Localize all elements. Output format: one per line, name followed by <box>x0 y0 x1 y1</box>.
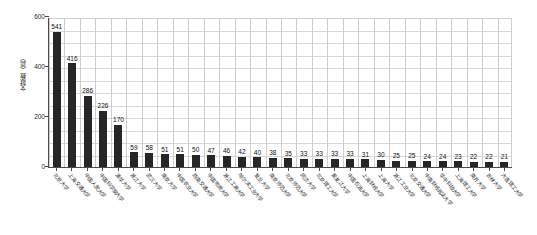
bar-slot: 416 <box>64 18 79 167</box>
x-axis-tick-mark <box>303 168 304 171</box>
x-axis-label-slot: 南京大学 <box>156 172 171 232</box>
bar-value-label: 24 <box>424 153 431 160</box>
bar-value-label: 22 <box>470 153 477 160</box>
bar-chart: 文献数（篇） 541416286226170595851515047464240… <box>0 0 537 235</box>
bar[interactable] <box>500 162 508 167</box>
x-axis-label-slot: 中南财经政法大学 <box>419 172 434 232</box>
bar-slot: 24 <box>435 18 450 167</box>
bar[interactable] <box>377 160 385 168</box>
bar[interactable] <box>423 161 431 167</box>
x-axis-label-slot: 上海大学 <box>373 172 388 232</box>
bar[interactable] <box>485 162 493 168</box>
y-axis-tick-mark <box>45 116 49 117</box>
bar-slot: 59 <box>126 18 141 167</box>
x-axis-label-slot: 上海财经大学 <box>357 172 372 232</box>
x-axis-label-slot: 中国农业大学 <box>172 172 187 232</box>
bar-value-label: 51 <box>161 146 168 153</box>
bar-value-label: 21 <box>501 153 508 160</box>
bar-slot: 22 <box>466 18 481 167</box>
x-axis-tick-mark <box>272 168 273 171</box>
bar[interactable] <box>99 111 107 168</box>
x-axis-label-slot: 浙江大学 <box>125 172 140 232</box>
bar[interactable] <box>176 154 184 167</box>
x-axis-tick-mark <box>473 168 474 171</box>
x-axis-label-slot: 华中科技大学 <box>435 172 450 232</box>
bar[interactable] <box>130 152 138 167</box>
bar-slot: 31 <box>358 18 373 167</box>
bar-slot: 33 <box>327 18 342 167</box>
x-axis-label-slot: 北京理工大学 <box>311 172 326 232</box>
bar[interactable] <box>238 157 246 168</box>
bar[interactable] <box>361 159 369 167</box>
bar[interactable] <box>223 156 231 168</box>
bar-slot: 21 <box>497 18 512 167</box>
bar[interactable] <box>269 158 277 168</box>
x-axis-label-slot: 中国人民大学 <box>79 172 94 232</box>
x-axis-tick-mark <box>412 168 413 171</box>
bar[interactable] <box>331 159 339 167</box>
x-axis-label-slot: 南京师范大学 <box>265 172 280 232</box>
x-axis-tick-mark <box>489 168 490 171</box>
bar-value-label: 25 <box>408 152 415 159</box>
bar-slot: 25 <box>389 18 404 167</box>
plot-area: 5414162862261705958515150474642403835333… <box>48 18 512 168</box>
bar[interactable] <box>315 159 323 167</box>
bar[interactable] <box>161 154 169 167</box>
x-axis-tick-mark <box>334 168 335 171</box>
x-axis-tick-mark <box>458 168 459 171</box>
bar[interactable] <box>439 161 447 167</box>
bar[interactable] <box>408 161 416 167</box>
bar-value-label: 23 <box>454 153 461 160</box>
x-axis-tick-mark <box>164 168 165 171</box>
bar[interactable] <box>392 161 400 167</box>
y-axis-tick-mark <box>45 16 49 17</box>
bar-slot: 51 <box>157 18 172 167</box>
bar-value-label: 31 <box>362 151 369 158</box>
bar-value-label: 58 <box>146 144 153 151</box>
x-axis-label: 大连理工大学 <box>501 172 525 199</box>
bar[interactable] <box>300 159 308 167</box>
x-axis-label-slot: 武汉大学 <box>141 172 156 232</box>
x-axis-label-slot: 中国科学院大学 <box>94 172 109 232</box>
x-axis-tick-mark <box>71 168 72 171</box>
bar-slot: 25 <box>404 18 419 167</box>
bar-slot: 58 <box>142 18 157 167</box>
bar-slot: 170 <box>111 18 126 167</box>
x-axis-label-slot: 北京师范大学 <box>280 172 295 232</box>
bar[interactable] <box>454 161 462 167</box>
bar-value-label: 33 <box>346 150 353 157</box>
bar[interactable] <box>68 63 76 167</box>
x-axis-tick-mark <box>381 168 382 171</box>
bar-value-label: 33 <box>316 150 323 157</box>
x-axis-tick-mark <box>350 168 351 171</box>
x-axis-tick-mark <box>257 168 258 171</box>
bar-value-label: 33 <box>331 150 338 157</box>
x-axis-label-slot: 浙江工商大学 <box>218 172 233 232</box>
y-axis-tick-label: 200 <box>23 114 45 121</box>
x-axis-labels: 北京大学上海交通大学中国人民大学中国科学院大学清华大学浙江大学武汉大学南京大学中… <box>48 172 512 232</box>
bar[interactable] <box>84 96 92 168</box>
x-axis-label-slot: 上海交通大学 <box>63 172 78 232</box>
x-axis-label-slot: 浙江工业大学 <box>388 172 403 232</box>
x-axis-label-slot: 西南交通大学 <box>187 172 202 232</box>
bar-slot: 33 <box>342 18 357 167</box>
bar-slot: 51 <box>173 18 188 167</box>
x-axis-tick-mark <box>195 168 196 171</box>
bar[interactable] <box>145 153 153 168</box>
bar-slot: 47 <box>203 18 218 167</box>
bar[interactable] <box>346 159 354 167</box>
bar[interactable] <box>470 162 478 168</box>
bar[interactable] <box>253 157 261 167</box>
y-axis-tick-mark <box>45 66 49 67</box>
bar-value-label: 59 <box>130 144 137 151</box>
bar-slot: 33 <box>311 18 326 167</box>
bar[interactable] <box>192 155 200 168</box>
x-axis-tick-mark <box>226 168 227 171</box>
bar-slot: 38 <box>265 18 280 167</box>
bar[interactable] <box>114 125 122 168</box>
bar[interactable] <box>53 32 61 167</box>
bar-value-label: 24 <box>439 153 446 160</box>
bar[interactable] <box>284 158 292 167</box>
bar[interactable] <box>207 155 215 167</box>
y-axis-tick-label: 400 <box>23 64 45 71</box>
